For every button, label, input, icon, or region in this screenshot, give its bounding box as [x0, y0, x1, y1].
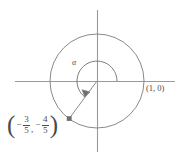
angle-label-alpha: α [72, 59, 76, 67]
y-fraction: 4 5 [42, 115, 49, 135]
y-numerator: 4 [42, 115, 49, 125]
x-numerator: 3 [23, 115, 30, 125]
point-label-terminal-coordinates: ( − 3 5 , − 4 5 ) [7, 110, 58, 140]
terminal-ray [69, 81, 97, 119]
open-paren-glyph: ( [7, 112, 15, 137]
x-negative-sign: − [16, 120, 21, 129]
y-negative-sign: − [35, 120, 40, 129]
unit-circle-figure: α (1, 0) ( − 3 5 , − 4 5 ) [0, 0, 181, 159]
coordinate-comma: , [31, 125, 33, 134]
terminal-point-marker [67, 116, 71, 120]
x-fraction: 3 5 [23, 115, 30, 135]
x-denominator: 5 [23, 126, 30, 136]
close-paren-glyph: ) [50, 112, 58, 137]
x-coordinate-term: − 3 5 [16, 115, 30, 135]
y-denominator: 5 [42, 126, 49, 136]
point-label-one-zero: (1, 0) [146, 84, 164, 93]
y-coordinate-term: − 4 5 [35, 115, 49, 135]
